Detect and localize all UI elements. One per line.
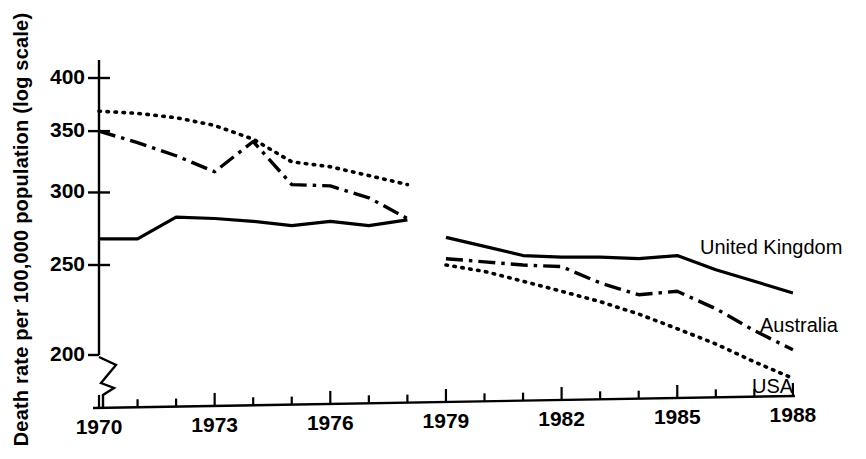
series-line-united-kingdom-seg0 [99, 217, 407, 239]
series-line-australia-seg1 [446, 259, 793, 350]
y-tick-label: 300 [31, 179, 85, 203]
y-tick-label: 400 [31, 65, 85, 89]
axes-group [88, 60, 795, 408]
x-tick-label: 1973 [175, 413, 255, 437]
series-label-usa: USA [752, 375, 793, 398]
series-group [99, 111, 793, 378]
y-tick-label: 250 [31, 252, 85, 276]
y-tick-label: 350 [31, 118, 85, 142]
x-tick-label: 1988 [753, 403, 833, 427]
x-tick-label: 1982 [522, 407, 602, 431]
series-label-australia: Australia [760, 314, 838, 337]
y-axis-break-symbol [99, 357, 116, 407]
x-tick-label: 1970 [59, 415, 139, 439]
x-tick-label: 1979 [406, 409, 486, 433]
series-label-united-kingdom: United Kingdom [700, 236, 842, 259]
y-tick-label: 200 [31, 342, 85, 366]
x-tick-label: 1985 [637, 405, 717, 429]
x-tick-label: 1976 [290, 411, 370, 435]
series-line-usa-seg0 [99, 111, 407, 184]
chart-plot-area [0, 0, 866, 459]
chart-figure: Death rate per 100,000 population (log s… [0, 0, 866, 459]
